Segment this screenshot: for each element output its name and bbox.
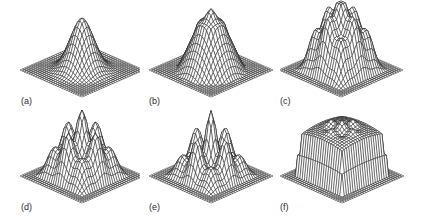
surface-plot-e — [140, 110, 280, 220]
panel-label-b: (b) — [149, 96, 160, 106]
panel-label-f: (f) — [280, 202, 289, 212]
figure-grid: (a) (b) (c) (d) (e) (f) — [0, 0, 421, 220]
panel-a: (a) — [0, 0, 140, 110]
surface-plot-c — [280, 0, 421, 110]
panel-e: (e) — [140, 110, 280, 220]
panel-label-d: (d) — [21, 202, 32, 212]
panel-f: (f) — [280, 110, 420, 220]
surface-plot-b — [140, 0, 280, 110]
panel-label-c: (c) — [280, 96, 291, 106]
panel-c: (c) — [280, 0, 420, 110]
surface-plot-a — [0, 0, 140, 110]
surface-plot-f — [280, 110, 421, 220]
panel-d: (d) — [0, 110, 140, 220]
panel-label-e: (e) — [149, 202, 160, 212]
panel-b: (b) — [140, 0, 280, 110]
panel-label-a: (a) — [21, 96, 32, 106]
